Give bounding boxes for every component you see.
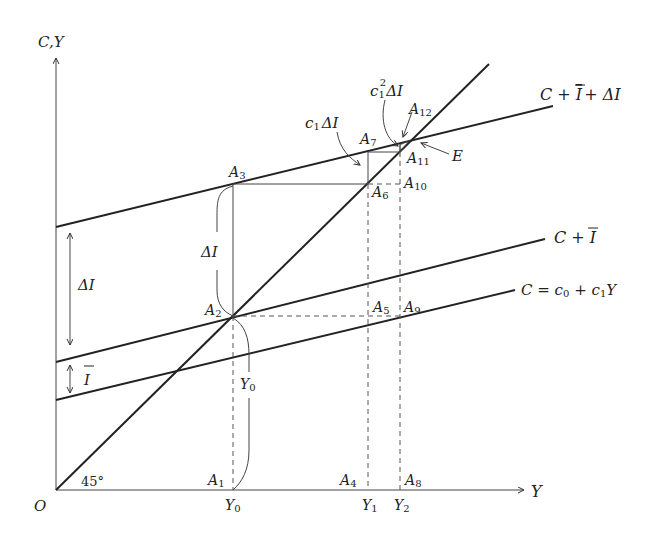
- c1-delta-i-label: c1ΔI: [305, 114, 340, 132]
- point-a6: A6: [370, 184, 389, 201]
- point-a8: A8: [403, 472, 422, 489]
- c-plus-i-label: C + I: [554, 228, 597, 247]
- c1-delta-i-arrow: [337, 132, 360, 165]
- keynesian-cross-diagram: C,Y Y O 45° C + I+ ΔI C + I C = c0 + c1Y…: [0, 0, 654, 546]
- point-e: E: [451, 147, 463, 165]
- tick-y2: Y2: [394, 497, 410, 514]
- y-axis-label: C,Y: [38, 33, 66, 51]
- point-a7: A7: [358, 131, 377, 148]
- point-a10: A10: [402, 175, 427, 192]
- point-a1: A1: [206, 472, 225, 489]
- point-a3: A3: [227, 164, 246, 181]
- point-a5: A5: [371, 299, 390, 316]
- delta-i-brace: [217, 186, 233, 316]
- line-45-degree: [56, 64, 489, 490]
- tick-y1: Y1: [362, 497, 378, 514]
- point-a11: A11: [405, 150, 430, 167]
- c1sq-delta-i-label: c12ΔI: [370, 77, 404, 100]
- y0-brace-label: Y0: [240, 376, 256, 393]
- e-arrow: [421, 143, 449, 154]
- delta-i-brace-label: ΔI: [200, 243, 219, 261]
- consumption-label: C = c0 + c1Y: [521, 281, 618, 299]
- c-plus-i-plus-delta-i-label: C + I+ ΔI: [540, 85, 621, 104]
- y0-brace: [233, 318, 249, 490]
- origin-label: O: [34, 497, 46, 515]
- i-bar-left-label: I: [83, 371, 91, 389]
- delta-i-left-label: ΔI: [77, 276, 96, 294]
- tick-y0: Y0: [225, 497, 241, 514]
- point-a2: A2: [203, 302, 222, 319]
- point-a4: A4: [338, 472, 357, 489]
- point-a9: A9: [402, 299, 421, 316]
- c1sq-delta-i-arrow: [383, 100, 398, 146]
- x-axis-label: Y: [531, 482, 543, 501]
- point-a12: A12: [407, 101, 432, 118]
- angle-label: 45°: [81, 474, 104, 489]
